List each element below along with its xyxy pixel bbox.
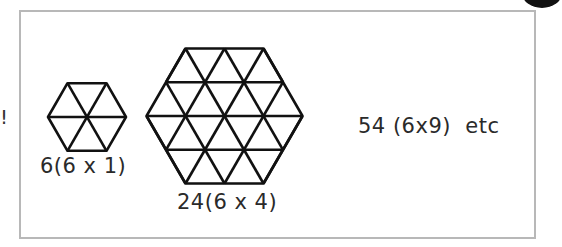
small-hexagon [48,83,126,151]
next-term-label: 54 (6x9) etc [358,114,499,138]
large-hexagon-count-label: 24(6 x 4) [177,190,277,214]
large-hexagon [147,49,303,184]
small-hexagon-count-label: 6(6 x 1) [40,154,126,178]
